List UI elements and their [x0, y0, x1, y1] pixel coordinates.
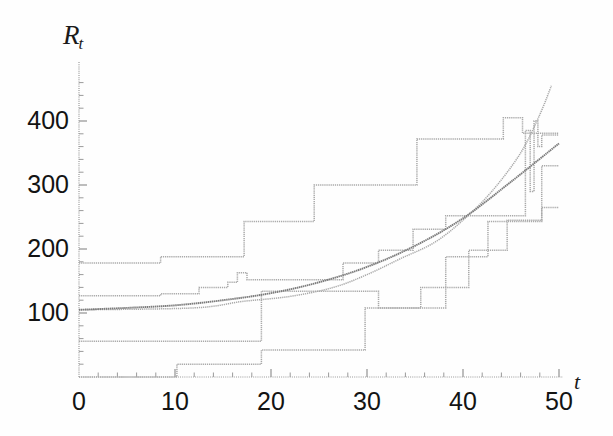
series-path-1 — [79, 118, 559, 263]
y-axis-title-subscript: t — [79, 34, 84, 53]
axes-layer — [79, 62, 563, 377]
x-axis-tick-label: 10 — [145, 389, 205, 414]
y-axis-tick-label: 300 — [11, 172, 69, 197]
y-axis-title: Rt — [63, 22, 83, 52]
series-path-4 — [79, 166, 559, 377]
y-axis-tick-label: 200 — [11, 236, 69, 261]
plot-area — [0, 0, 613, 436]
y-axis-tick-label: 400 — [11, 108, 69, 133]
chart-figure: Rt t 10020030040001020304050 — [0, 0, 613, 436]
series-path-3 — [79, 207, 559, 341]
x-axis-tick-label: 40 — [433, 389, 493, 414]
y-axis-title-main: R — [63, 20, 80, 50]
x-axis-tick-label: 0 — [49, 389, 109, 414]
y-axis-tick-label: 100 — [11, 300, 69, 325]
x-axis-tick-label: 20 — [241, 389, 301, 414]
series-path-5 — [79, 86, 551, 310]
series-path-2 — [79, 121, 559, 296]
series-mean-curve — [79, 143, 559, 309]
series-layer — [79, 86, 559, 377]
x-axis-tick-label: 50 — [529, 389, 589, 414]
x-axis-tick-label: 30 — [337, 389, 397, 414]
